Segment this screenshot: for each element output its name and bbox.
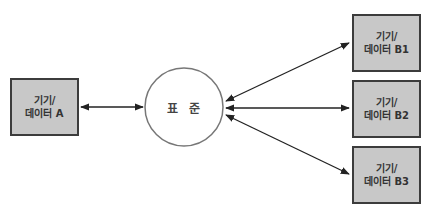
box-label-line1: 기기/ xyxy=(34,94,56,107)
box-label-line2: 데이터 A xyxy=(25,107,63,120)
device-data-b3-box: 기기/ 데이터 B3 xyxy=(352,146,421,204)
box-label-line2: 데이터 B3 xyxy=(364,175,409,188)
device-data-b2-box: 기기/ 데이터 B2 xyxy=(352,80,421,138)
device-data-a-box: 기기/ 데이터 A xyxy=(10,78,79,136)
box-label-line1: 기기/ xyxy=(376,96,398,109)
box-label-line1: 기기/ xyxy=(376,30,398,43)
box-label-line1: 기기/ xyxy=(376,162,398,175)
box-label-line2: 데이터 B2 xyxy=(364,109,409,122)
standard-label: 표 준 xyxy=(154,99,216,116)
box-label-line2: 데이터 B1 xyxy=(364,43,409,56)
device-data-b1-box: 기기/ 데이터 B1 xyxy=(352,14,421,72)
arrow-standard-to-b3 xyxy=(226,115,349,174)
arrow-standard-to-b1 xyxy=(226,43,349,101)
